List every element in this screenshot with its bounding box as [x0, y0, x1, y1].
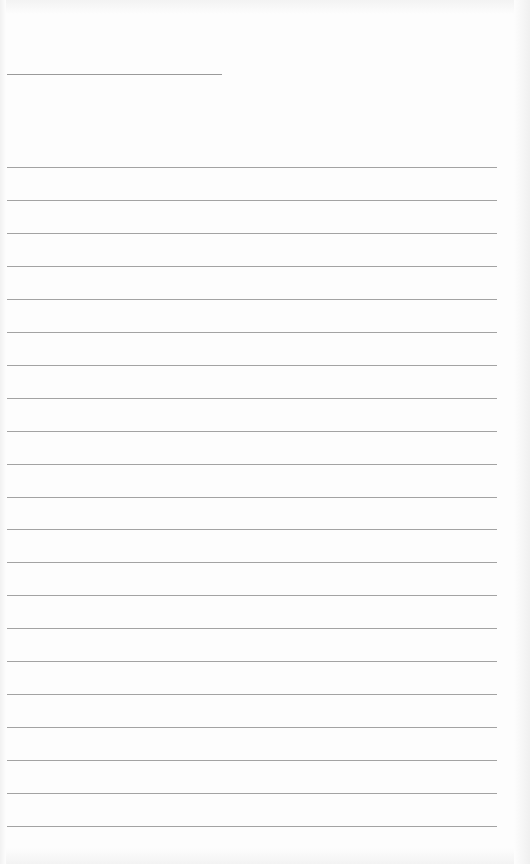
ruled-line: [7, 727, 497, 728]
ruled-line: [7, 628, 497, 629]
ruled-line: [7, 497, 497, 498]
ruled-line: [7, 266, 497, 267]
ruled-line: [7, 694, 497, 695]
ruled-line: [7, 562, 497, 563]
ruled-line: [7, 464, 497, 465]
ruled-line: [7, 398, 497, 399]
ruled-line: [7, 431, 497, 432]
page-edge-shadow: [0, 0, 6, 864]
ruled-line: [7, 793, 497, 794]
ruled-line: [7, 332, 497, 333]
ruled-line: [7, 529, 497, 530]
ruled-line: [7, 299, 497, 300]
ruled-line: [7, 661, 497, 662]
ruled-line: [7, 760, 497, 761]
ruled-line: [7, 167, 497, 168]
ruled-line: [7, 365, 497, 366]
page-edge-shadow: [514, 0, 530, 864]
lined-page: [0, 0, 530, 864]
header-rule: [7, 74, 222, 75]
ruled-line: [7, 200, 497, 201]
ruled-line: [7, 233, 497, 234]
ruled-line: [7, 826, 497, 827]
ruled-line: [7, 595, 497, 596]
